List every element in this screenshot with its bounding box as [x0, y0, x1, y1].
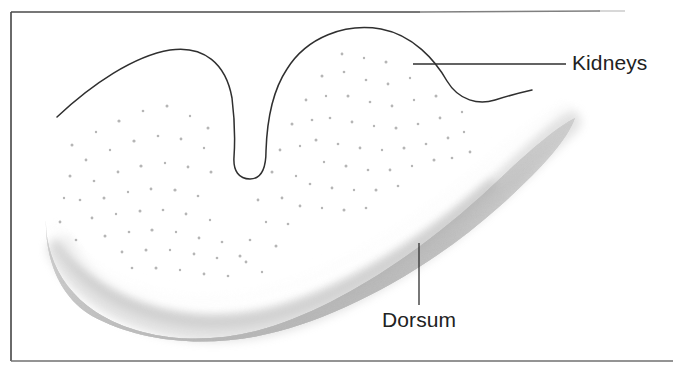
dorsum-label: Dorsum: [382, 308, 456, 331]
anatomical-figure: Kidneys Dorsum: [0, 0, 673, 372]
figure-root: Kidneys Dorsum: [0, 0, 673, 372]
kidneys-label: Kidneys: [572, 51, 647, 74]
